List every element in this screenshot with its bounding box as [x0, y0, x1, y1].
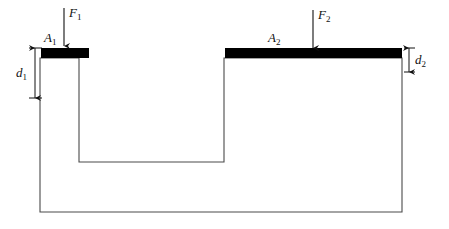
- label-F1: F1: [68, 5, 81, 22]
- label-d1: d1: [16, 65, 27, 82]
- label-F2: F2: [317, 7, 330, 24]
- label-d2: d2: [415, 52, 426, 69]
- vessel-outline: [40, 58, 402, 212]
- left-piston-A1: [41, 48, 89, 58]
- figure-canvas: A1 F1 A2 F2 d1 d2: [0, 0, 449, 229]
- right-piston-A2: [225, 48, 402, 58]
- label-A2: A2: [267, 30, 280, 47]
- hydraulic-press-figure: A1 F1 A2 F2 d1 d2: [0, 0, 449, 229]
- label-A1: A1: [43, 30, 56, 47]
